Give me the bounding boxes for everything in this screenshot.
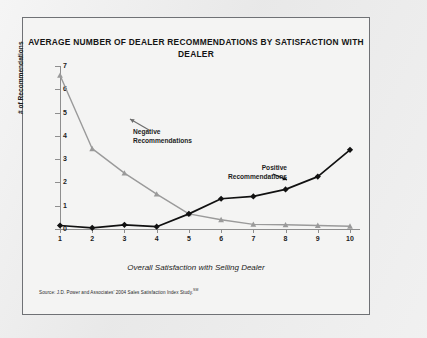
series-positive-recommendations bbox=[57, 147, 353, 231]
data-point-diamond bbox=[154, 224, 160, 230]
data-point-triangle bbox=[89, 146, 95, 151]
data-point-diamond bbox=[89, 225, 95, 231]
data-point-triangle bbox=[57, 72, 63, 77]
series-negative-recommendations bbox=[57, 72, 353, 228]
source-note-text: Source: J.D. Power and Associates' 2004 … bbox=[39, 290, 193, 295]
data-point-diamond bbox=[218, 196, 224, 202]
annotation-negative-line2: Recommendations bbox=[133, 137, 192, 146]
page-background: AVERAGE NUMBER OF DEALER RECOMMENDATIONS… bbox=[0, 0, 427, 338]
source-note: Source: J.D. Power and Associates' 2004 … bbox=[39, 288, 198, 295]
data-point-diamond bbox=[250, 193, 256, 199]
annotation-negative-recommendations: Negative Recommendations bbox=[133, 128, 192, 146]
annotation-negative-line1: Negative bbox=[133, 128, 192, 137]
annotation-positive-recommendations: Positive Recommendations bbox=[203, 164, 287, 182]
annotation-positive-line2: Recommendations bbox=[203, 173, 287, 182]
annotation-positive-line1: Positive bbox=[203, 164, 287, 173]
data-point-diamond bbox=[57, 222, 63, 228]
data-point-diamond bbox=[282, 186, 288, 192]
series-plot bbox=[23, 18, 371, 316]
source-note-superscript: SM bbox=[193, 288, 198, 292]
series-line bbox=[60, 75, 350, 226]
chart-frame: AVERAGE NUMBER OF DEALER RECOMMENDATIONS… bbox=[22, 17, 370, 315]
data-point-diamond bbox=[121, 222, 127, 228]
